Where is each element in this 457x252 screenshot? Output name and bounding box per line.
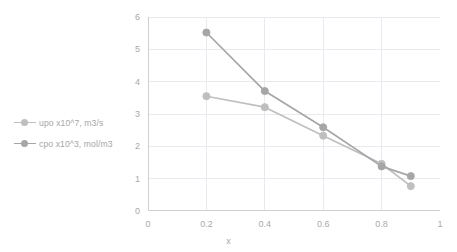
x-tick-0.8: 0.8 [367, 219, 397, 229]
y-tick-6: 6 [118, 12, 140, 22]
legend-label-upo: upo x10^7, m3/s [39, 118, 103, 128]
plot-area [148, 17, 440, 211]
legend-dot-cpo [21, 140, 28, 147]
plot-canvas [148, 17, 440, 211]
y-tick-2: 2 [118, 141, 140, 151]
data-point-cpo-2 [320, 124, 327, 131]
x-axis-title: x [0, 236, 457, 246]
y-tick-4: 4 [118, 77, 140, 87]
y-tick-3: 3 [118, 109, 140, 119]
y-tick-1: 1 [118, 174, 140, 184]
legend-marker-upo-icon [14, 118, 36, 128]
data-point-cpo-4 [407, 172, 414, 179]
data-point-upo-0 [203, 93, 210, 100]
x-tick-1: 1 [425, 219, 455, 229]
legend-marker-cpo-icon [14, 139, 36, 149]
data-point-cpo-0 [203, 29, 210, 36]
line-chart: upo x10^7, m3/s cpo x10^3, mol/m3 012345… [0, 0, 457, 252]
y-tick-5: 5 [118, 44, 140, 54]
data-point-cpo-1 [261, 87, 268, 94]
data-point-cpo-3 [378, 163, 385, 170]
x-tick-0: 0 [133, 219, 163, 229]
data-point-upo-4 [407, 183, 414, 190]
legend-label-cpo: cpo x10^3, mol/m3 [39, 139, 113, 149]
legend-dot-upo [21, 119, 28, 126]
x-tick-0.2: 0.2 [191, 219, 221, 229]
data-point-upo-2 [320, 132, 327, 139]
gridlines [148, 17, 440, 211]
x-tick-0.6: 0.6 [308, 219, 338, 229]
data-series [203, 29, 415, 190]
x-tick-0.4: 0.4 [250, 219, 280, 229]
y-tick-0: 0 [118, 206, 140, 216]
data-point-upo-1 [261, 104, 268, 111]
